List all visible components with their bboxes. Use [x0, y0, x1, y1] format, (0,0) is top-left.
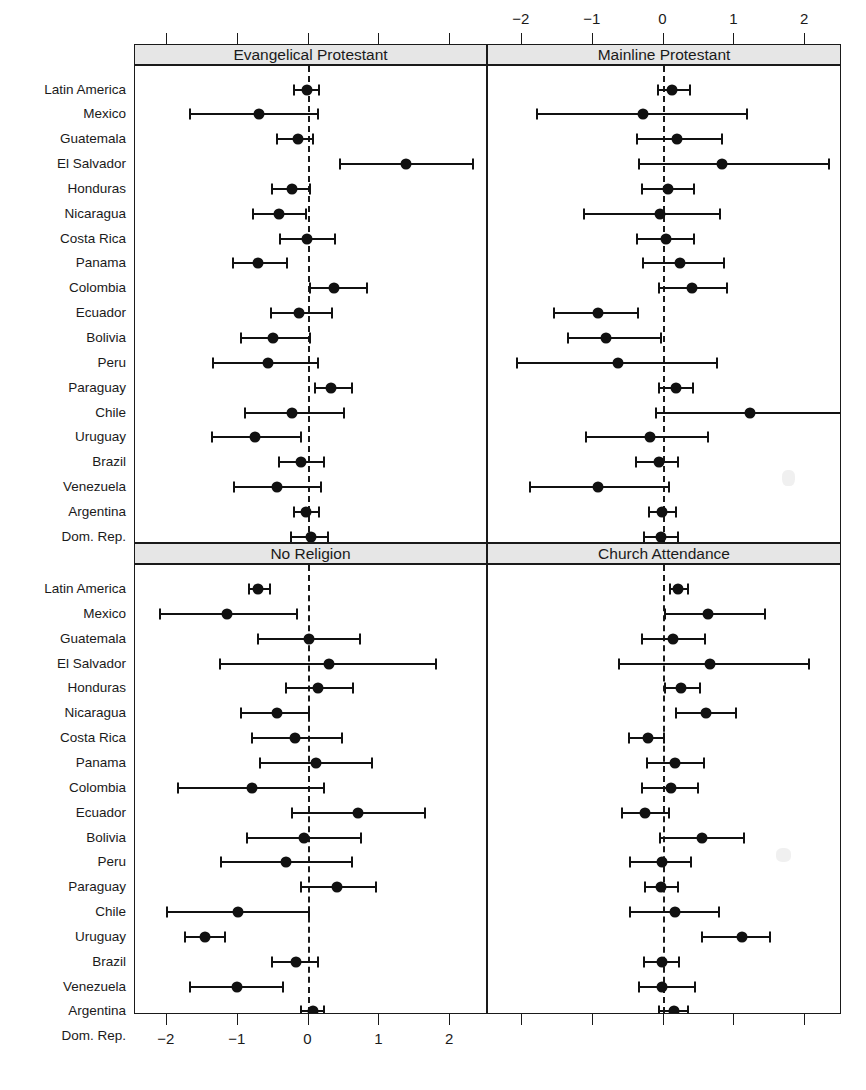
row-label-latin-america: Latin America	[44, 581, 126, 596]
bottom-axis-tick-label: 2	[429, 1030, 469, 1047]
axis-tick-minus2	[521, 33, 522, 44]
ci-cap-high	[323, 1006, 325, 1014]
ci-cap-low	[270, 308, 272, 319]
row-label-paraguay: Paraguay	[68, 879, 126, 894]
ci-cap-low	[529, 482, 531, 493]
ci-cap-high	[675, 506, 677, 517]
ci-cap-high	[746, 109, 748, 120]
ci-cap-low	[240, 708, 242, 719]
ci-cap-high	[697, 782, 699, 793]
point-estimate-marker	[657, 857, 668, 868]
ci-cap-low	[641, 183, 643, 194]
panel-no-religion	[134, 564, 487, 1014]
ci-cap-high	[689, 84, 691, 95]
point-estimate-marker	[744, 407, 755, 418]
point-estimate-marker	[299, 832, 310, 843]
ci-cap-high	[359, 633, 361, 644]
ci-cap-high	[300, 432, 302, 443]
top-axis-tick-label: −2	[501, 10, 541, 27]
ci-cap-high	[269, 584, 271, 595]
row-label-uruguay: Uruguay	[75, 928, 126, 943]
ci-cap-low	[271, 956, 273, 967]
ci-cap-low	[184, 931, 186, 942]
ci-cap-high	[692, 382, 694, 393]
ci-cap-low	[643, 531, 645, 542]
point-estimate-marker	[640, 807, 651, 818]
ci-cap-low	[285, 683, 287, 694]
axis-tick-minus1	[592, 1014, 593, 1025]
point-estimate-marker	[660, 233, 671, 244]
point-estimate-marker	[663, 183, 674, 194]
ci-cap-high	[637, 308, 639, 319]
ci-cap-low	[276, 134, 278, 145]
point-estimate-marker	[667, 633, 678, 644]
axis-tick-1	[378, 33, 379, 44]
point-estimate-marker	[305, 531, 316, 542]
ci-cap-low	[636, 134, 638, 145]
bottom-axis-tick-label: −1	[217, 1030, 257, 1047]
ci-cap-low	[290, 531, 292, 542]
ci-cap-high	[719, 208, 721, 219]
ci-cap-high	[308, 708, 310, 719]
ci-cap-low	[567, 333, 569, 344]
ci-cap-high	[317, 956, 319, 967]
point-estimate-marker	[324, 658, 335, 669]
ci-cap-high	[308, 907, 310, 918]
point-estimate-marker	[280, 857, 291, 868]
point-estimate-marker	[401, 159, 412, 170]
point-estimate-marker	[252, 584, 263, 595]
point-estimate-marker	[655, 531, 666, 542]
ci-cap-high	[668, 807, 670, 818]
point-estimate-marker	[295, 457, 306, 468]
panel-title: Church Attendance	[598, 545, 730, 563]
ci-cap-high	[693, 183, 695, 194]
point-estimate-marker	[328, 283, 339, 294]
panel-strip-no-religion: No Religion	[134, 543, 487, 564]
point-estimate-marker	[666, 84, 677, 95]
row-label-ecuador: Ecuador	[76, 804, 126, 819]
ci-cap-low	[642, 258, 644, 269]
zero-reference-line	[663, 565, 665, 1013]
point-estimate-marker	[613, 357, 624, 368]
point-estimate-marker	[642, 733, 653, 744]
point-estimate-marker	[222, 608, 233, 619]
axis-tick-1	[733, 33, 734, 44]
point-estimate-marker	[263, 357, 274, 368]
ci-cap-low	[300, 882, 302, 893]
ci-cap-low	[643, 956, 645, 967]
point-estimate-marker	[310, 757, 321, 768]
point-estimate-marker	[331, 882, 342, 893]
ci-cap-low	[309, 283, 311, 294]
ci-cap-low	[166, 907, 168, 918]
point-estimate-marker	[703, 608, 714, 619]
point-estimate-marker	[293, 308, 304, 319]
row-label-el-salvador: El Salvador	[57, 156, 126, 171]
point-estimate-marker	[326, 382, 337, 393]
axis-tick-0	[308, 33, 309, 44]
ci-cap-high	[660, 333, 662, 344]
ci-cap-low	[177, 782, 179, 793]
ci-cap-low	[641, 633, 643, 644]
ci-cap-high	[318, 84, 320, 95]
top-axis-tick-label: 1	[713, 10, 753, 27]
ci-cap-low	[658, 283, 660, 294]
top-axis-tick-label: −1	[572, 10, 612, 27]
panel-strip-mainline-protestant: Mainline Protestant	[487, 44, 841, 65]
ci-cap-high	[690, 857, 692, 868]
ci-cap-low	[646, 757, 648, 768]
point-estimate-marker	[593, 482, 604, 493]
point-estimate-marker	[593, 308, 604, 319]
axis-tick-minus1	[237, 1014, 238, 1025]
point-estimate-marker	[697, 832, 708, 843]
ci-cap-high	[351, 382, 353, 393]
ci-cap-high	[677, 882, 679, 893]
ci-cap-high	[718, 907, 720, 918]
row-label-brazil: Brazil	[92, 953, 126, 968]
confidence-interval-bar	[639, 163, 829, 165]
confidence-interval-bar	[584, 213, 720, 215]
point-estimate-marker	[312, 683, 323, 694]
ci-cap-high	[371, 757, 373, 768]
ci-cap-low	[220, 857, 222, 868]
ci-cap-low	[278, 457, 280, 468]
ci-cap-low	[635, 457, 637, 468]
